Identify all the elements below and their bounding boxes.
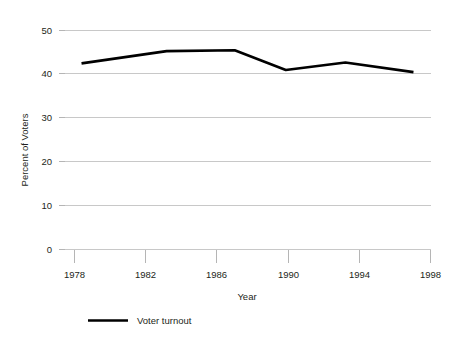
x-tick-label-1994: 1994	[349, 269, 370, 280]
x-tick-label-1986: 1986	[206, 269, 227, 280]
y-tickmarks-group	[59, 31, 65, 250]
voter-turnout-line-chart: 50 40 30 20 10 0 1978 1982 1986 1990 199…	[0, 0, 455, 340]
y-tick-label-0: 0	[47, 244, 52, 255]
x-tick-labels-group: 1978 1982 1986 1990 1994 1998	[64, 269, 441, 280]
x-tick-label-1990: 1990	[278, 269, 299, 280]
chart-container: 50 40 30 20 10 0 1978 1982 1986 1990 199…	[0, 0, 455, 340]
x-tick-label-1982: 1982	[135, 269, 156, 280]
legend-label-voter-turnout: Voter turnout	[137, 315, 192, 326]
y-tick-label-10: 10	[41, 200, 52, 211]
y-tick-label-30: 30	[41, 112, 52, 123]
x-tick-label-1978: 1978	[64, 269, 85, 280]
x-axis-title: Year	[237, 291, 256, 302]
series-line-voter-turnout	[82, 50, 414, 72]
x-tick-label-1998: 1998	[420, 269, 441, 280]
y-tick-label-50: 50	[41, 25, 52, 36]
x-tickmarks-group	[75, 250, 431, 263]
y-tick-label-20: 20	[41, 156, 52, 167]
chart-legend: Voter turnout	[88, 315, 192, 326]
y-tick-label-40: 40	[41, 68, 52, 79]
y-tick-labels-group: 50 40 30 20 10 0	[41, 25, 52, 255]
y-axis-title: Percent of Voters	[19, 113, 30, 186]
